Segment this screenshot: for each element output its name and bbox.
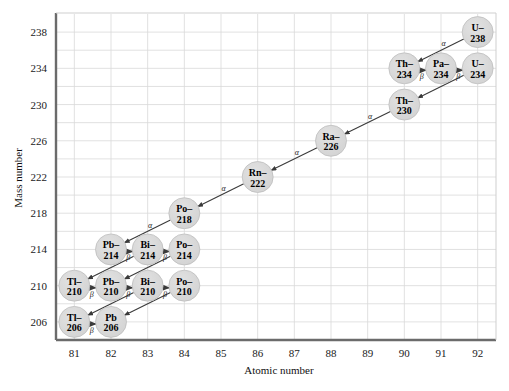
nuclide-node[interactable]: Pb–210 bbox=[96, 270, 127, 301]
node-mass-label: 234 bbox=[397, 69, 412, 80]
y-tick-label: 214 bbox=[31, 243, 48, 255]
y-tick-label: 218 bbox=[31, 207, 48, 219]
nuclide-node[interactable]: Tl–210 bbox=[59, 270, 90, 301]
node-element-label: Bi– bbox=[140, 276, 155, 287]
x-axis-ticks: 818283848586878889909192 bbox=[69, 347, 483, 359]
node-mass-label: 234 bbox=[470, 69, 485, 80]
node-element-label: Th– bbox=[396, 95, 414, 106]
node-mass-label: 226 bbox=[324, 141, 339, 152]
node-element-label: Po– bbox=[176, 239, 193, 250]
nuclide-node[interactable]: Pb206 bbox=[96, 306, 127, 337]
node-mass-label: 218 bbox=[177, 214, 192, 225]
nuclide-node[interactable]: Tl–206 bbox=[59, 306, 90, 337]
x-tick-label: 81 bbox=[69, 347, 80, 359]
node-element-label: Rn– bbox=[249, 167, 268, 178]
node-element-label: Tl– bbox=[67, 276, 82, 287]
x-tick-label: 87 bbox=[289, 347, 301, 359]
beta-label: β bbox=[162, 253, 167, 262]
x-tick-label: 85 bbox=[216, 347, 228, 359]
y-tick-label: 230 bbox=[31, 99, 48, 111]
node-element-label: Pb– bbox=[103, 276, 121, 287]
nuclide-node[interactable]: U–238 bbox=[462, 17, 493, 48]
y-tick-label: 234 bbox=[31, 62, 48, 74]
x-tick-label: 89 bbox=[362, 347, 374, 359]
nuclide-node[interactable]: Po–214 bbox=[169, 234, 200, 265]
node-element-label: Pb bbox=[105, 312, 117, 323]
alpha-label: α bbox=[441, 39, 446, 48]
node-mass-label: 222 bbox=[250, 178, 265, 189]
x-tick-label: 84 bbox=[179, 347, 191, 359]
node-mass-label: 238 bbox=[470, 33, 485, 44]
y-tick-label: 210 bbox=[31, 280, 48, 292]
y-tick-label: 206 bbox=[31, 316, 48, 328]
node-element-label: Tl– bbox=[67, 312, 82, 323]
beta-label: β bbox=[455, 72, 460, 81]
node-element-label: Ra– bbox=[322, 131, 340, 142]
y-tick-label: 226 bbox=[31, 135, 48, 147]
x-tick-label: 88 bbox=[326, 347, 338, 359]
node-element-label: U– bbox=[472, 22, 485, 33]
nuclide-node[interactable]: U–234 bbox=[462, 53, 493, 84]
beta-label: β bbox=[162, 290, 167, 299]
node-mass-label: 214 bbox=[177, 250, 192, 261]
x-tick-label: 90 bbox=[399, 347, 411, 359]
node-mass-label: 206 bbox=[104, 322, 119, 333]
beta-label: β bbox=[419, 72, 424, 81]
node-element-label: Po– bbox=[176, 203, 193, 214]
decay-chain-chart: αββαααααββααβββααβ U–238Th–234Pa–234U–23… bbox=[0, 0, 509, 391]
node-mass-label: 214 bbox=[140, 250, 155, 261]
node-mass-label: 210 bbox=[140, 286, 155, 297]
x-tick-label: 83 bbox=[142, 347, 154, 359]
node-element-label: Po– bbox=[176, 276, 193, 287]
alpha-label: α bbox=[221, 184, 226, 193]
beta-label: β bbox=[125, 290, 130, 299]
y-tick-label: 238 bbox=[31, 26, 48, 38]
nuclide-node[interactable]: Th–230 bbox=[389, 89, 420, 120]
y-tick-label: 222 bbox=[31, 171, 48, 183]
nuclide-node[interactable]: Rn–222 bbox=[242, 162, 273, 193]
nuclide-node[interactable]: Bi–214 bbox=[132, 234, 163, 265]
x-tick-label: 82 bbox=[106, 347, 117, 359]
node-mass-label: 210 bbox=[104, 286, 119, 297]
x-tick-label: 92 bbox=[472, 347, 483, 359]
node-mass-label: 210 bbox=[177, 286, 192, 297]
node-element-label: Pb– bbox=[103, 239, 121, 250]
chart-canvas: αββαααααββααβββααβ U–238Th–234Pa–234U–23… bbox=[0, 0, 509, 391]
node-element-label: Pa– bbox=[433, 58, 450, 69]
nuclide-node[interactable]: Pa–234 bbox=[426, 53, 457, 84]
x-tick-label: 91 bbox=[436, 347, 447, 359]
x-axis-title: Atomic number bbox=[244, 364, 314, 376]
node-mass-label: 206 bbox=[67, 322, 82, 333]
nuclide-node[interactable]: Ra–226 bbox=[316, 125, 347, 156]
node-mass-label: 234 bbox=[434, 69, 449, 80]
node-mass-label: 214 bbox=[104, 250, 119, 261]
node-element-label: U– bbox=[472, 58, 485, 69]
beta-label: β bbox=[89, 326, 94, 335]
beta-label: β bbox=[89, 290, 94, 299]
nuclide-node[interactable]: Th–234 bbox=[389, 53, 420, 84]
node-mass-label: 230 bbox=[397, 105, 412, 116]
nuclide-node[interactable]: Po–218 bbox=[169, 198, 200, 229]
nuclide-node[interactable]: Po–210 bbox=[169, 270, 200, 301]
y-axis-ticks: 238234230226222218214210206 bbox=[31, 26, 48, 328]
alpha-label: α bbox=[295, 148, 300, 157]
y-axis-title: Mass number bbox=[12, 148, 24, 208]
nuclide-node[interactable]: Bi–210 bbox=[132, 270, 163, 301]
alpha-label: α bbox=[148, 221, 153, 230]
beta-label: β bbox=[125, 253, 130, 262]
x-tick-label: 86 bbox=[252, 347, 264, 359]
node-mass-label: 210 bbox=[67, 286, 82, 297]
node-element-label: Bi– bbox=[140, 239, 155, 250]
nuclide-node[interactable]: Pb–214 bbox=[96, 234, 127, 265]
alpha-label: α bbox=[368, 112, 373, 121]
node-element-label: Th– bbox=[396, 58, 414, 69]
